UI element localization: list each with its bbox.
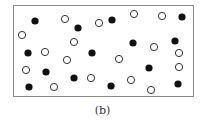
- open-particle: [158, 12, 165, 19]
- open-particle: [95, 19, 102, 26]
- open-particle: [61, 15, 68, 22]
- filled-particle: [129, 39, 136, 46]
- open-particle: [175, 49, 182, 56]
- filled-particle: [88, 49, 95, 56]
- open-particle: [115, 55, 122, 62]
- open-particle: [22, 66, 29, 73]
- open-particle: [175, 63, 182, 70]
- open-particle: [18, 31, 25, 38]
- filled-particle: [107, 82, 114, 89]
- open-particle: [50, 83, 57, 90]
- filled-particle: [108, 16, 115, 23]
- open-particle: [150, 43, 157, 50]
- open-particle: [87, 74, 94, 81]
- filled-particle: [24, 49, 31, 56]
- open-particle: [127, 76, 134, 83]
- figure-caption: (b): [0, 104, 205, 117]
- open-particle: [130, 10, 137, 17]
- open-particle: [63, 56, 70, 63]
- filled-particle: [174, 80, 181, 87]
- open-particle: [147, 86, 154, 93]
- open-particle: [41, 48, 48, 55]
- filled-particle: [31, 17, 38, 24]
- filled-particle: [145, 64, 152, 71]
- open-particle: [70, 38, 77, 45]
- filled-particle: [178, 13, 185, 20]
- filled-particle: [171, 37, 178, 44]
- filled-particle: [70, 74, 77, 81]
- filled-particle: [74, 24, 81, 31]
- filled-particle: [25, 83, 32, 90]
- filled-particle: [42, 68, 49, 75]
